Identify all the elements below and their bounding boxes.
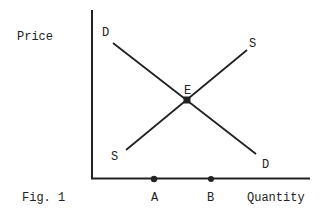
supply-label-bottom: S bbox=[111, 150, 118, 164]
point-b-marker bbox=[208, 176, 214, 182]
point-b-label: B bbox=[207, 191, 214, 205]
demand-label-bottom: D bbox=[262, 158, 269, 172]
y-axis-label: Price bbox=[17, 30, 53, 44]
supply-demand-diagram: Price D S E S D Fig. 1 A B Quantity bbox=[0, 0, 327, 217]
equilibrium-label: E bbox=[184, 84, 191, 98]
figure-label: Fig. 1 bbox=[22, 191, 65, 205]
point-a-label: A bbox=[151, 191, 159, 205]
x-axis-label: Quantity bbox=[247, 191, 305, 205]
supply-label-top: S bbox=[249, 37, 256, 51]
demand-label-top: D bbox=[102, 26, 109, 40]
point-a-marker bbox=[151, 176, 157, 182]
